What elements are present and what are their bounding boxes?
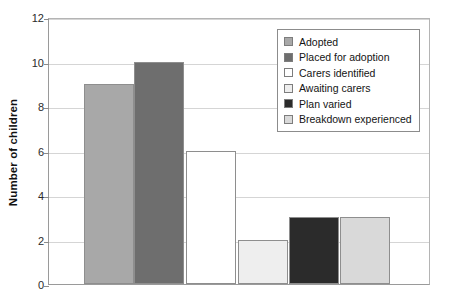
legend-item-label: Awaiting carers xyxy=(299,83,371,94)
legend-item-label: Plan varied xyxy=(299,99,352,110)
bar xyxy=(84,84,134,284)
legend-swatch-icon xyxy=(284,99,293,108)
legend-item: Placed for adoption xyxy=(284,50,412,66)
bar-chart: Number of children 024681012 AdoptedPlac… xyxy=(0,0,449,305)
legend-item-label: Carers identified xyxy=(299,68,375,79)
y-axis-tick-label: 6 xyxy=(26,146,44,158)
y-axis-tick-label: 2 xyxy=(26,235,44,247)
legend-swatch-icon xyxy=(284,37,293,46)
y-axis-tick-label: 0 xyxy=(26,279,44,291)
legend-item: Breakdown experienced xyxy=(284,112,412,128)
legend-swatch-icon xyxy=(284,68,293,77)
legend-item-label: Breakdown experienced xyxy=(299,114,412,125)
y-axis-tick-label: 10 xyxy=(26,57,44,69)
bar xyxy=(134,62,184,285)
y-axis-tick-mark xyxy=(44,286,49,287)
legend: AdoptedPlaced for adoptionCarers identif… xyxy=(277,29,420,132)
legend-item-label: Adopted xyxy=(299,37,338,48)
legend-item: Plan varied xyxy=(284,96,412,112)
y-axis-tick-label: 12 xyxy=(26,12,44,24)
legend-swatch-icon xyxy=(284,84,293,93)
y-axis-tick-label: 4 xyxy=(26,190,44,202)
bar xyxy=(289,217,339,284)
legend-swatch-icon xyxy=(284,53,293,62)
legend-swatch-icon xyxy=(284,115,293,124)
bar xyxy=(340,217,390,284)
y-axis-tick-labels: 024681012 xyxy=(26,0,44,305)
bar xyxy=(238,240,288,285)
legend-item: Awaiting carers xyxy=(284,81,412,97)
legend-item: Adopted xyxy=(284,34,412,50)
y-axis-title: Number of children xyxy=(0,0,26,305)
legend-item-label: Placed for adoption xyxy=(299,52,389,63)
legend-item: Carers identified xyxy=(284,65,412,81)
y-axis-tick-label: 8 xyxy=(26,101,44,113)
bar xyxy=(186,151,236,285)
